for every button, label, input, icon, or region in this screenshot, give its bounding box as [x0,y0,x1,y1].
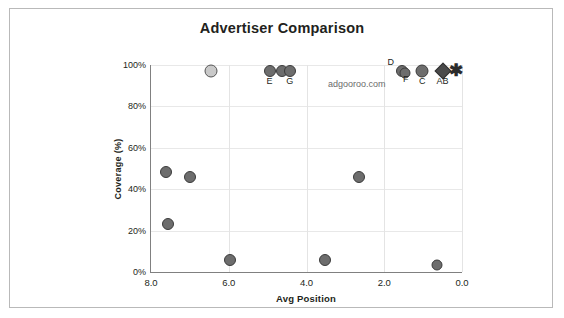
data-point-circle[interactable] [162,218,174,230]
data-point-label: E [267,76,273,86]
y-axis-tick-label: 80% [128,101,146,111]
data-point-circle[interactable] [431,260,442,271]
watermark-label: adgooroo.com [328,79,386,89]
y-axis-tick-label: 60% [128,143,146,153]
gridline-vertical [462,65,463,272]
data-point-label: G [286,76,293,86]
data-point-circle[interactable] [184,171,196,183]
gridline-vertical [384,65,385,272]
plot-area: 0%20%40%60%80%100%8.06.04.02.00.0EGDFCAB… [150,65,462,273]
x-axis-tick-label: 2.0 [378,277,391,288]
data-point-circle[interactable] [353,171,365,183]
x-axis-tick-label: 4.0 [300,277,313,288]
x-axis-tick-label: 6.0 [222,277,235,288]
y-axis-tick-label: 0% [133,267,146,277]
data-point-label: C [419,76,426,86]
x-axis-tick-label: 8.0 [144,277,157,288]
data-point-label: D [387,57,394,67]
y-axis-title: Coverage (%) [111,65,125,273]
data-point-circle[interactable] [160,166,172,178]
y-axis-tick-label: 100% [123,60,146,70]
x-axis-tick-label: 0.0 [455,277,468,288]
data-point-star[interactable]: ✱ [449,64,463,78]
y-axis-tick-label: 40% [128,184,146,194]
x-axis-title: Avg Position [150,293,462,304]
chart-title: Advertiser Comparison [10,20,554,36]
data-point-circle[interactable] [224,254,236,266]
y-axis-tick-label: 20% [128,226,146,236]
data-point-circle[interactable] [205,65,218,78]
data-point-label: AB [437,76,449,86]
gridline-vertical [307,65,308,272]
y-axis-title-text: Coverage (%) [113,138,123,199]
data-point-circle[interactable] [319,254,331,266]
data-point-label: F [403,74,409,84]
chart-frame: Advertiser Comparison Coverage (%) 0%20%… [9,8,553,308]
gridline-vertical [229,65,230,272]
